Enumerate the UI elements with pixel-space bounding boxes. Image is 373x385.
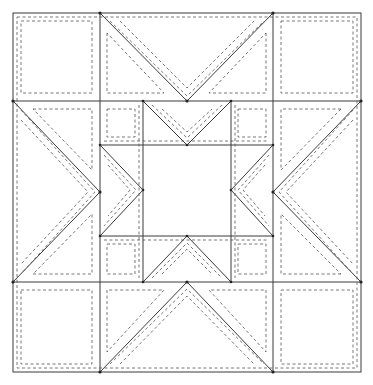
quilt-block-diagram bbox=[0, 0, 373, 385]
cut-lines bbox=[13, 13, 361, 372]
seam-lines bbox=[17, 17, 357, 368]
vertex-nodes bbox=[11, 11, 362, 373]
